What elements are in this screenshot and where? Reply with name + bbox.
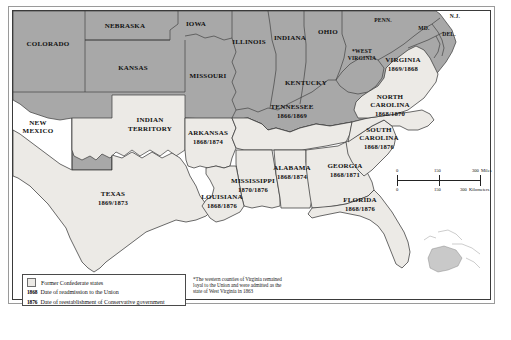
- legend-label-readmission: Date of readmission to the Union: [40, 289, 118, 295]
- scalebar-miles-unit: Miles: [481, 168, 491, 173]
- scalebar-miles-tick-0: 0: [396, 168, 398, 173]
- label-alabama: ALABAMA: [273, 164, 311, 172]
- label-iowa: IOWA: [186, 20, 206, 28]
- map-legend: Former Confederate states 1868 Date of r…: [22, 274, 186, 306]
- dates-georgia: 1868/1871: [330, 171, 360, 178]
- legend-swatch-label: Former Confederate states: [41, 280, 103, 286]
- scalebar-miles-tick-300: 300: [472, 168, 479, 173]
- label-colorado: COLORADO: [27, 40, 70, 48]
- dates-virginia: 1869/1868: [388, 65, 419, 72]
- label-louisiana: LOUISIANA: [201, 193, 242, 201]
- legend-year-readmission: 1868: [27, 289, 37, 295]
- dates-arkansas: 1868/1874: [193, 138, 224, 145]
- label-indian-territory-line2: TERRITORY: [128, 125, 172, 133]
- dates-texas: 1869/1873: [98, 199, 129, 206]
- label-virginia: VIRGINIA: [385, 56, 420, 64]
- label-penn: PENN.: [374, 17, 392, 23]
- label-indiana: INDIANA: [274, 34, 306, 42]
- dates-louisiana: 1868/1876: [207, 202, 238, 209]
- label-missouri: MISSOURI: [190, 72, 227, 80]
- legend-row-swatch: Former Confederate states: [27, 278, 181, 287]
- dates-alabama: 1868/1874: [277, 173, 308, 180]
- scalebar-km-tick-300: 300: [460, 187, 467, 192]
- map-scalebar: 0 150 300 Miles 0 150 300 Kilometers: [396, 168, 492, 200]
- label-north-carolina-line1: NORTH: [377, 93, 404, 101]
- label-new-mexico-line1: NEW: [29, 119, 46, 127]
- label-north-carolina-line2: CAROLINA: [370, 101, 410, 109]
- scalebar-tick-right: [480, 175, 481, 186]
- label-kansas: KANSAS: [118, 64, 148, 72]
- scalebar-km-tick-0: 0: [396, 187, 398, 192]
- label-new-mexico-line2: MEXICO: [23, 127, 54, 135]
- dates-north-carolina: 1868/1870: [375, 110, 406, 117]
- legend-row-conservative: 1876 Date of reestablishment of Conserva…: [27, 297, 181, 306]
- label-del: DEL.: [442, 31, 456, 37]
- label-indian-territory-line1: INDIAN: [137, 116, 164, 124]
- label-nj: N.J.: [450, 13, 461, 19]
- label-mississippi: MISSISSIPPI: [231, 177, 275, 185]
- dates-mississippi: 1870/1876: [238, 186, 269, 193]
- map-page: COLORADO NEBRASKA KANSAS IOWA MISSOURI I…: [0, 0, 511, 340]
- label-georgia: GEORGIA: [327, 162, 362, 170]
- legend-row-readmission: 1868 Date of readmission to the Union: [27, 288, 181, 297]
- label-south-carolina-line2: CAROLINA: [359, 134, 399, 142]
- scalebar-miles-tick-150: 150: [434, 168, 441, 173]
- dates-florida: 1868/1876: [345, 205, 376, 212]
- label-kentucky: KENTUCKY: [285, 79, 327, 87]
- label-md: MD.: [418, 25, 430, 31]
- label-florida: FLORIDA: [343, 196, 377, 204]
- scalebar-km-unit: Kilometers: [469, 187, 489, 192]
- label-illinois: ILLINOIS: [232, 38, 266, 46]
- dates-tennessee: 1866/1869: [277, 112, 308, 119]
- scalebar-km-tick-150: 150: [434, 187, 441, 192]
- label-ohio: OHIO: [318, 28, 338, 36]
- confederate-states-swatch: [27, 278, 36, 287]
- label-tennessee: TENNESSEE: [270, 103, 313, 111]
- label-arkansas: ARKANSAS: [188, 129, 228, 137]
- label-west-virginia-line2: VIRGINIA: [348, 55, 377, 61]
- scalebar-tick-left: [397, 175, 398, 186]
- scalebar-tick-mid: [439, 175, 440, 186]
- label-texas: TEXAS: [101, 190, 125, 198]
- map-footnote: *The western counties of Virginia remain…: [193, 276, 285, 295]
- legend-year-conservative: 1876: [27, 299, 37, 305]
- label-south-carolina-line1: SOUTH: [366, 126, 392, 134]
- legend-label-conservative: Date of reestablishment of Conservative …: [40, 299, 164, 305]
- label-nebraska: NEBRASKA: [105, 22, 146, 30]
- label-west-virginia-line1: *WEST: [352, 48, 372, 54]
- dates-south-carolina: 1868/1876: [364, 143, 395, 150]
